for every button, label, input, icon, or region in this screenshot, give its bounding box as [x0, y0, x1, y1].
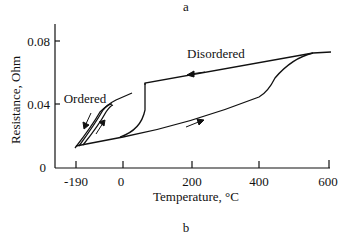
x-tick: 600 — [318, 174, 338, 189]
x-tick: 400 — [249, 174, 269, 189]
y-tick: 0.04 — [27, 97, 50, 112]
y-axis-label: Resistance, Ohm — [8, 56, 23, 144]
disordered-annotation: Disordered — [187, 46, 245, 61]
y-tick: 0.08 — [27, 34, 50, 49]
panel-label-a: a — [183, 0, 189, 14]
x-tick: -190 — [64, 174, 88, 189]
chart: a 0.08 0.04 0 -190 0 200 400 600 Tempera… — [0, 0, 343, 239]
curves — [75, 52, 331, 148]
arrow-down-icon — [83, 122, 89, 129]
arrow-right-icon — [197, 119, 204, 125]
panel-label-b: b — [183, 220, 190, 235]
x-tick: 200 — [182, 174, 202, 189]
heating-curve — [76, 53, 313, 146]
x-tick: 0 — [118, 174, 125, 189]
y-tick: 0 — [40, 160, 47, 175]
ordered-annotation: Ordered — [64, 91, 107, 106]
arrow-left-icon — [187, 71, 194, 77]
transition-curve — [120, 83, 145, 137]
x-axis-label: Temperature, °C — [153, 189, 239, 204]
